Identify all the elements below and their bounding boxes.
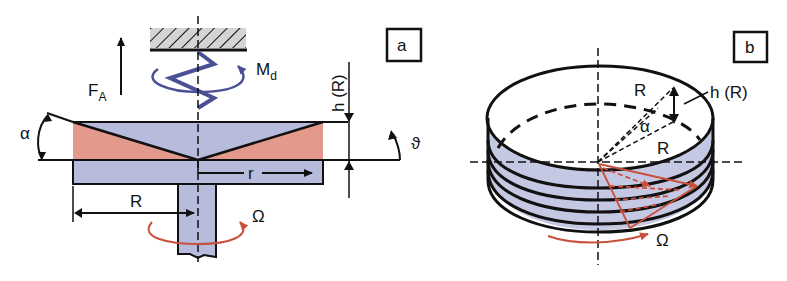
svg-text:Ω: Ω	[656, 231, 669, 250]
svg-text:b: b	[745, 38, 754, 57]
svg-text:ϑ: ϑ	[411, 134, 421, 153]
svg-text:h (R): h (R)	[710, 83, 748, 102]
svg-text:α: α	[640, 117, 650, 136]
svg-text:Md: Md	[256, 60, 277, 83]
svg-text:FA: FA	[88, 81, 106, 104]
cone-plate-rheometer-diagram: FA Md r R Ω h (R)	[0, 0, 787, 281]
svg-text:R: R	[130, 192, 142, 211]
svg-text:h (R): h (R)	[329, 74, 348, 112]
svg-text:Ω: Ω	[252, 207, 265, 226]
svg-text:R: R	[657, 139, 669, 158]
svg-text:α: α	[20, 124, 30, 143]
shaft	[178, 184, 216, 258]
svg-text:r: r	[248, 164, 254, 183]
svg-text:a: a	[397, 36, 407, 55]
panel-a: FA Md r R Ω h (R)	[20, 16, 421, 262]
cylinder-top-ellipse	[487, 66, 713, 170]
torsion-spring	[170, 52, 214, 108]
hidden-rim	[498, 104, 700, 148]
svg-text:R: R	[634, 81, 646, 100]
panel-b: h (R) R R α Ω b	[470, 32, 767, 265]
